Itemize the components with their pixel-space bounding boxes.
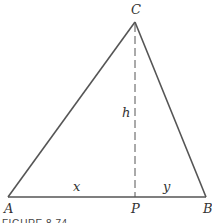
vertex-label-c: C (131, 2, 141, 17)
figure-caption: FIGURE 8.74 (2, 218, 68, 223)
vertex-label-b: B (202, 201, 212, 216)
side-bc (135, 22, 206, 197)
segment-label-x: x (73, 179, 81, 194)
vertex-label-p: P (130, 201, 140, 216)
side-ac (8, 22, 135, 197)
height-label-h: h (122, 105, 130, 120)
triangle-diagram: C A B P h x y FIGURE 8.74 (0, 0, 212, 223)
vertex-label-a: A (3, 201, 13, 216)
segment-label-y: y (162, 179, 171, 194)
